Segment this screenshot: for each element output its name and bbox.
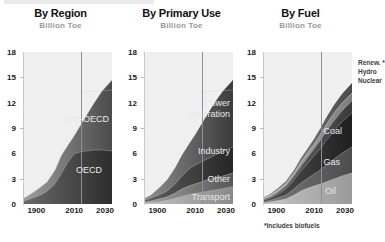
x-tick-label: 2010 bbox=[186, 206, 204, 215]
y-tick-label: 3 bbox=[252, 174, 256, 183]
x-tick-label: 1900 bbox=[267, 206, 285, 215]
y-tick-label: 15 bbox=[128, 73, 137, 82]
panel-title: By Fuel bbox=[224, 7, 377, 19]
band-label-oil: Oil bbox=[325, 186, 336, 196]
stacked-area-by-region bbox=[24, 52, 112, 204]
y-tick-label: 3 bbox=[133, 174, 137, 183]
panel-by-region: By Region Billion Toe 18 15 12 9 6 3 0 bbox=[0, 0, 121, 242]
x-tick-label: 2010 bbox=[305, 206, 323, 215]
x-tick-label: 1900 bbox=[27, 206, 45, 215]
y-tick-label: 9 bbox=[133, 124, 137, 133]
band-label-non-oecd: Non-OECD bbox=[63, 114, 109, 124]
y-tick-label: 0 bbox=[252, 200, 256, 209]
band-label-gas: Gas bbox=[323, 157, 340, 167]
band-label-coal: Coal bbox=[323, 126, 342, 136]
y-tick-label: 9 bbox=[252, 124, 256, 133]
x-tick-label: 2010 bbox=[65, 206, 83, 215]
x-axis: 1900 2010 2030 bbox=[24, 206, 112, 220]
panel-by-primary-use: By Primary Use Billion Toe 18 15 12 9 6 … bbox=[121, 0, 242, 242]
y-tick-label: 12 bbox=[128, 98, 137, 107]
y-tick-label: 3 bbox=[12, 174, 16, 183]
panel-by-fuel: By Fuel Billion Toe 18 15 12 9 6 3 0 bbox=[242, 0, 377, 242]
year-marker-2010 bbox=[321, 52, 322, 204]
legend-item-hydro: Hydro bbox=[358, 67, 385, 76]
x-tick-label: 1900 bbox=[148, 206, 166, 215]
x-axis: 1900 2010 2030 bbox=[145, 206, 233, 220]
y-tick-label: 6 bbox=[12, 149, 16, 158]
y-tick-label: 15 bbox=[7, 73, 16, 82]
x-tick-label: 2030 bbox=[217, 206, 235, 215]
band-label-other: Other bbox=[207, 174, 230, 184]
y-axis: 18 15 12 9 6 3 0 bbox=[0, 52, 22, 204]
x-tick-label: 2030 bbox=[96, 206, 114, 215]
band-label-oecd: OECD bbox=[76, 165, 102, 175]
y-tick-label: 0 bbox=[12, 200, 16, 209]
year-marker-2010 bbox=[202, 52, 203, 204]
plot-area-by-primary-use: Power generation Industry Other Transpor… bbox=[145, 52, 233, 204]
plot-area-by-fuel: Coal Gas Oil bbox=[264, 52, 352, 204]
panel-title: By Region bbox=[0, 7, 121, 19]
y-tick-label: 18 bbox=[7, 48, 16, 57]
legend-item-renewables: Renew. * bbox=[358, 58, 385, 67]
band-label-power-line1: Power bbox=[204, 98, 230, 108]
band-label-power-generation: Power generation bbox=[187, 98, 230, 120]
y-tick-label: 15 bbox=[247, 73, 256, 82]
x-tick-label: 2030 bbox=[336, 206, 354, 215]
y-axis: 18 15 12 9 6 3 0 bbox=[121, 52, 143, 204]
legend-by-fuel: Renew. * Hydro Nuclear bbox=[358, 58, 385, 85]
band-label-industry: Industry bbox=[198, 146, 230, 156]
y-tick-label: 0 bbox=[133, 200, 137, 209]
y-tick-label: 18 bbox=[247, 48, 256, 57]
x-axis: 1900 2010 2030 bbox=[264, 206, 352, 220]
year-marker-2010 bbox=[81, 52, 82, 204]
y-tick-label: 6 bbox=[133, 149, 137, 158]
band-label-power-line2: generation bbox=[187, 109, 230, 119]
legend-item-nuclear: Nuclear bbox=[358, 76, 385, 85]
y-tick-label: 12 bbox=[247, 98, 256, 107]
panel-subtitle: Billion Toe bbox=[0, 21, 121, 30]
panel-subtitle: Billion Toe bbox=[224, 21, 377, 30]
y-tick-label: 18 bbox=[128, 48, 137, 57]
y-axis: 18 15 12 9 6 3 0 bbox=[242, 52, 262, 204]
y-tick-label: 9 bbox=[12, 124, 16, 133]
y-tick-label: 12 bbox=[7, 98, 16, 107]
y-tick-label: 6 bbox=[252, 149, 256, 158]
plot-area-by-region: Non-OECD OECD bbox=[24, 52, 112, 204]
footnote-includes-biofuels: *Includes biofuels bbox=[264, 222, 320, 229]
band-label-transport: Transport bbox=[192, 192, 230, 202]
